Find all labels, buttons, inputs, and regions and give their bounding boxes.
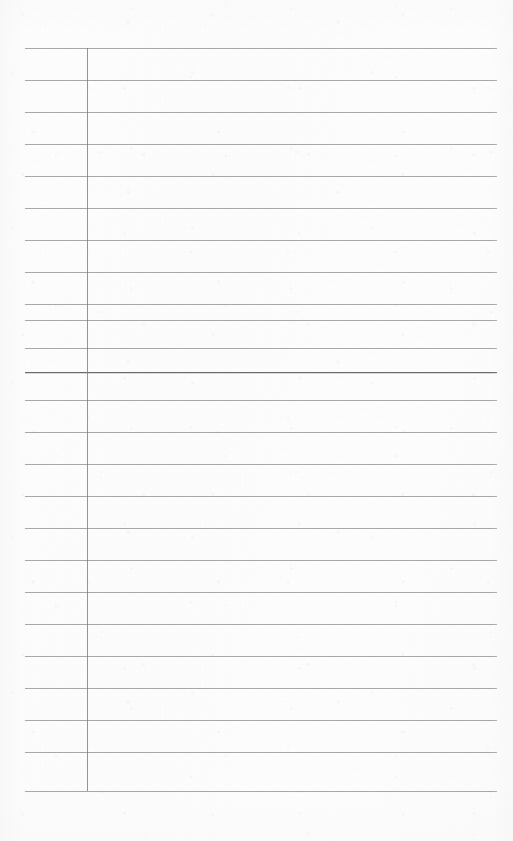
ledger-row[interactable] <box>25 320 497 348</box>
ledger-row[interactable] <box>25 656 497 688</box>
row-label-cell[interactable] <box>25 560 87 592</box>
row-label-cell[interactable] <box>25 144 87 176</box>
ledger-row[interactable] <box>25 688 497 720</box>
row-label-cell[interactable] <box>25 688 87 720</box>
ledger-row[interactable] <box>25 560 497 592</box>
row-label-cell[interactable] <box>25 720 87 752</box>
ledger-row[interactable] <box>25 496 497 528</box>
ledger-row[interactable] <box>25 176 497 208</box>
row-label-cell[interactable] <box>25 372 87 400</box>
ledger-row[interactable] <box>25 720 497 752</box>
row-label-cell[interactable] <box>25 400 87 432</box>
ledger-page <box>0 0 513 841</box>
row-content-cell[interactable] <box>87 112 497 144</box>
ledger-row[interactable] <box>25 144 497 176</box>
row-label-cell[interactable] <box>25 112 87 144</box>
row-label-cell[interactable] <box>25 48 87 80</box>
row-content-cell[interactable] <box>87 720 497 752</box>
ledger-row[interactable] <box>25 48 497 80</box>
row-content-cell[interactable] <box>87 372 497 400</box>
row-label-cell[interactable] <box>25 80 87 112</box>
ledger-row[interactable] <box>25 592 497 624</box>
row-content-cell[interactable] <box>87 48 497 80</box>
row-content-cell[interactable] <box>87 144 497 176</box>
row-label-cell[interactable] <box>25 348 87 372</box>
row-content-cell[interactable] <box>87 400 497 432</box>
row-label-cell[interactable] <box>25 528 87 560</box>
ledger-row[interactable] <box>25 464 497 496</box>
ledger-row[interactable] <box>25 372 497 400</box>
row-label-cell[interactable] <box>25 464 87 496</box>
row-label-cell[interactable] <box>25 240 87 272</box>
row-content-cell[interactable] <box>87 464 497 496</box>
ledger-row[interactable] <box>25 304 497 320</box>
ledger-row[interactable] <box>25 400 497 432</box>
row-content-cell[interactable] <box>87 752 497 791</box>
ledger-row[interactable] <box>25 112 497 144</box>
row-label-cell[interactable] <box>25 304 87 320</box>
ledger-row[interactable] <box>25 272 497 304</box>
row-content-cell[interactable] <box>87 320 497 348</box>
ledger-row[interactable] <box>25 752 497 791</box>
row-label-cell[interactable] <box>25 752 87 791</box>
row-content-cell[interactable] <box>87 656 497 688</box>
row-content-cell[interactable] <box>87 688 497 720</box>
row-content-cell[interactable] <box>87 496 497 528</box>
row-content-cell[interactable] <box>87 592 497 624</box>
ledger-row[interactable] <box>25 624 497 656</box>
row-content-cell[interactable] <box>87 432 497 464</box>
row-content-cell[interactable] <box>87 80 497 112</box>
ledger-row[interactable] <box>25 432 497 464</box>
row-content-cell[interactable] <box>87 624 497 656</box>
row-content-cell[interactable] <box>87 240 497 272</box>
row-label-cell[interactable] <box>25 624 87 656</box>
row-content-cell[interactable] <box>87 528 497 560</box>
ledger-row[interactable] <box>25 348 497 372</box>
row-label-cell[interactable] <box>25 656 87 688</box>
ledger-row[interactable] <box>25 80 497 112</box>
row-content-cell[interactable] <box>87 176 497 208</box>
ledger-row[interactable] <box>25 240 497 272</box>
row-label-cell[interactable] <box>25 208 87 240</box>
row-content-cell[interactable] <box>87 560 497 592</box>
row-label-cell[interactable] <box>25 592 87 624</box>
row-label-cell[interactable] <box>25 272 87 304</box>
row-content-cell[interactable] <box>87 348 497 372</box>
row-content-cell[interactable] <box>87 208 497 240</box>
row-content-cell[interactable] <box>87 272 497 304</box>
ledger-row[interactable] <box>25 208 497 240</box>
rule-line <box>25 791 497 792</box>
ledger-row[interactable] <box>25 528 497 560</box>
row-label-cell[interactable] <box>25 432 87 464</box>
row-label-cell[interactable] <box>25 496 87 528</box>
row-content-cell[interactable] <box>87 304 497 320</box>
row-label-cell[interactable] <box>25 320 87 348</box>
row-label-cell[interactable] <box>25 176 87 208</box>
